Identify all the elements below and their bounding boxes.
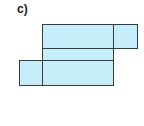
- middle-strip: [43, 49, 114, 61]
- top-face: [43, 25, 114, 49]
- left-flap: [20, 61, 43, 86]
- right-flap: [114, 25, 138, 49]
- bottom-face: [43, 61, 114, 86]
- cuboid-net-diagram: [0, 0, 144, 126]
